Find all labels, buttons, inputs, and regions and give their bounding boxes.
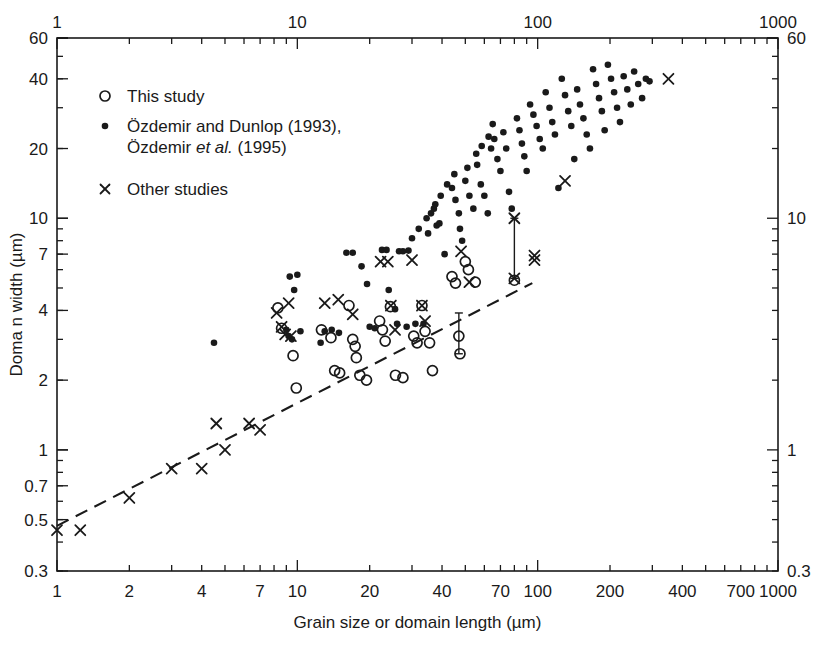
data-point-filled [574,86,581,93]
data-point-filled [546,104,553,111]
svg-text:700: 700 [727,582,755,601]
svg-text:1: 1 [787,441,796,460]
svg-text:70: 70 [491,582,510,601]
svg-text:1: 1 [52,13,61,32]
svg-text:0.7: 0.7 [24,477,48,496]
data-point-filled [478,181,485,188]
data-point-filled [508,205,515,212]
data-point-filled [601,127,608,134]
data-point-filled [617,119,624,126]
data-point-filled [568,123,575,130]
svg-text:400: 400 [668,582,696,601]
data-point-filled [639,95,646,102]
data-point-filled [552,131,559,138]
data-point-filled [491,136,498,143]
data-point-filled [620,73,627,80]
svg-text:100: 100 [523,582,551,601]
data-point-filled [473,150,480,157]
svg-text:4: 4 [39,301,48,320]
data-point-filled [451,171,458,178]
data-point-filled [593,81,600,88]
data-point-filled [432,201,439,208]
data-point-filled [542,89,549,96]
data-point-filled [457,226,464,233]
data-point-filled [549,119,556,126]
data-point-filled [336,330,343,337]
svg-text:40: 40 [433,582,452,601]
svg-text:10: 10 [787,209,806,228]
data-point-filled [474,162,481,169]
svg-text:60: 60 [787,29,806,48]
svg-text:1000: 1000 [759,582,797,601]
data-point-filled [562,92,569,99]
data-point-filled [571,156,578,163]
data-point-filled [565,108,572,115]
data-point-filled [409,235,416,242]
data-point-filled [485,133,492,140]
data-point-filled [459,237,466,244]
data-point-filled [611,89,618,96]
data-point-filled [403,323,410,330]
data-point-filled [583,131,590,138]
svg-text:40: 40 [29,70,48,89]
data-point-filled [291,287,298,294]
svg-text:10: 10 [288,13,307,32]
data-point-filled [383,247,390,254]
data-point-filled [590,66,597,73]
data-point-filled [343,249,350,256]
svg-text:60: 60 [29,29,48,48]
data-point-filled [521,153,528,160]
data-point-filled [587,145,594,152]
data-point-filled [614,104,621,111]
data-point-filled [294,271,301,278]
data-point-filled [349,249,356,256]
data-point-filled [497,168,504,175]
data-point-filled [317,339,324,346]
data-point-filled [358,263,365,270]
svg-text:1: 1 [52,582,61,601]
svg-text:7: 7 [39,245,48,264]
data-point-filled [423,215,430,222]
svg-text:2: 2 [39,371,48,390]
data-point-filled [364,281,371,288]
svg-text:Grain size or domain length (µ: Grain size or domain length (µm) [294,613,542,632]
legend-marker-filled-dot [102,123,109,130]
svg-text:10: 10 [288,582,307,601]
data-point-filled [385,287,392,294]
data-point-filled [516,127,523,134]
svg-text:20: 20 [29,140,48,159]
data-point-filled [441,251,448,258]
svg-text:4: 4 [197,582,206,601]
data-point-filled [437,192,444,199]
data-point-filled [646,78,653,85]
data-point-filled [536,136,543,143]
data-point-filled [478,143,485,150]
data-point-filled [405,247,412,254]
svg-text:7: 7 [255,582,264,601]
svg-text:0.3: 0.3 [787,562,811,581]
data-point-filled [425,230,432,237]
data-point-filled [500,129,507,136]
data-point-filled [514,115,521,122]
data-point-filled [462,178,469,185]
data-point-filled [539,145,546,152]
svg-text:Özdemir and Dunlop (1993),: Özdemir and Dunlop (1993), [127,117,342,136]
svg-text:0.3: 0.3 [24,562,48,581]
data-point-filled [506,189,513,196]
data-point-filled [627,101,634,108]
svg-text:200: 200 [596,582,624,601]
data-point-filled [412,321,419,328]
data-point-filled [489,121,496,128]
svg-text:20: 20 [360,582,379,601]
data-point-filled [519,140,526,147]
data-point-filled [503,145,510,152]
data-point-filled [533,123,540,130]
data-point-filled [488,145,495,152]
data-point-filled [608,75,615,82]
data-point-filled [577,101,584,108]
data-point-filled [452,197,459,204]
data-point-filled [297,328,304,335]
svg-text:10: 10 [29,209,48,228]
data-point-filled [605,61,612,68]
data-point-filled [527,101,534,108]
